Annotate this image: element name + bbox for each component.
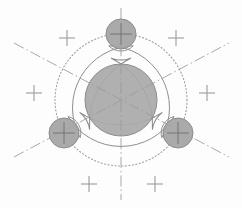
drawing-canvas <box>0 0 242 208</box>
technical-drawing-svg <box>0 0 242 208</box>
